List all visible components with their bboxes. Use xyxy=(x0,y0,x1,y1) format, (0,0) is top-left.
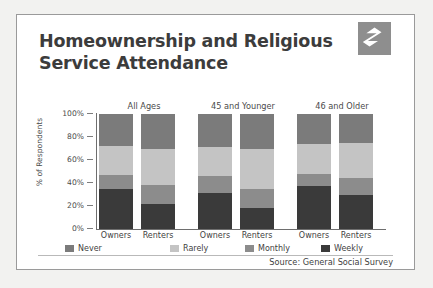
bar-segment-monthly[interactable] xyxy=(240,189,274,209)
bar-segment-rarely[interactable] xyxy=(297,144,331,174)
bar-segment-weekly[interactable] xyxy=(141,204,175,229)
tick-mark-icon xyxy=(87,228,93,229)
x-axis-line xyxy=(96,229,386,230)
source-divider xyxy=(38,255,393,256)
stacked-bar[interactable] xyxy=(141,114,175,229)
bar-group-title: 46 and Older xyxy=(297,101,387,111)
title-line-2: Service Attendance xyxy=(39,53,339,75)
x-axis-label: Owners xyxy=(192,231,238,240)
y-tick-0: 0% xyxy=(57,224,93,234)
bar-segment-monthly[interactable] xyxy=(99,175,133,189)
plot-area: All AgesOwnersRenters45 and YoungerOwner… xyxy=(99,114,387,229)
legend-item[interactable]: Never xyxy=(65,244,102,253)
tick-mark-icon xyxy=(87,205,93,206)
tick-mark-icon xyxy=(87,182,93,183)
legend-item[interactable]: Rarely xyxy=(170,244,208,253)
bar-segment-never[interactable] xyxy=(297,114,331,144)
bar-segment-weekly[interactable] xyxy=(99,189,133,229)
legend-label: Never xyxy=(78,244,102,253)
legend-item[interactable]: Weekly xyxy=(321,244,363,253)
bar-group: All AgesOwnersRenters xyxy=(99,114,189,229)
bar-group-title: 45 and Younger xyxy=(198,101,288,111)
stacked-bar[interactable] xyxy=(198,114,232,229)
bar-segment-never[interactable] xyxy=(141,114,175,149)
bar-segment-monthly[interactable] xyxy=(141,185,175,203)
source-note: Source: General Social Survey xyxy=(269,257,393,267)
tick-mark-icon xyxy=(87,113,93,114)
bar-segment-never[interactable] xyxy=(339,114,373,143)
tick-mark-icon xyxy=(87,136,93,137)
y-tick-100: 100% xyxy=(57,109,93,119)
stacked-bar[interactable] xyxy=(240,114,274,229)
stacked-bar[interactable] xyxy=(339,114,373,229)
bar-segment-rarely[interactable] xyxy=(198,147,232,176)
bar-segment-weekly[interactable] xyxy=(297,186,331,229)
legend-label: Monthly xyxy=(258,244,290,253)
bar-segment-rarely[interactable] xyxy=(240,149,274,189)
x-axis-label: Renters xyxy=(234,231,280,240)
bar-segment-never[interactable] xyxy=(240,114,274,149)
bar-segment-rarely[interactable] xyxy=(339,143,373,179)
bar-segment-weekly[interactable] xyxy=(339,195,373,230)
y-tick-60: 60% xyxy=(57,155,93,165)
bar-group: 45 and YoungerOwnersRenters xyxy=(198,114,288,229)
legend-swatch-icon xyxy=(321,245,330,252)
y-tick-40: 40% xyxy=(57,178,93,188)
stacked-bar[interactable] xyxy=(297,114,331,229)
page-title: Homeownership and Religious Service Atte… xyxy=(39,31,339,74)
bar-segment-never[interactable] xyxy=(198,114,232,147)
tick-mark-icon xyxy=(87,159,93,160)
bar-group: 46 and OlderOwnersRenters xyxy=(297,114,387,229)
bar-segment-rarely[interactable] xyxy=(99,146,133,175)
bar-segment-weekly[interactable] xyxy=(198,193,232,229)
bar-segment-never[interactable] xyxy=(99,114,133,146)
stacked-bar[interactable] xyxy=(99,114,133,229)
legend-swatch-icon xyxy=(245,245,254,252)
y-axis-ticks: 100% 80% 60% 40% 20% 0% xyxy=(57,114,93,229)
x-axis-label: Owners xyxy=(291,231,337,240)
y-axis-line xyxy=(96,113,97,230)
chart-card: Homeownership and Religious Service Atte… xyxy=(16,14,415,270)
y-tick-20: 20% xyxy=(57,201,93,211)
legend-swatch-icon xyxy=(170,245,179,252)
x-axis-label: Renters xyxy=(135,231,181,240)
bar-segment-weekly[interactable] xyxy=(240,208,274,229)
title-line-1: Homeownership and Religious xyxy=(39,31,339,53)
x-axis-label: Renters xyxy=(333,231,379,240)
legend-swatch-icon xyxy=(65,245,74,252)
bar-group-title: All Ages xyxy=(99,101,189,111)
zillow-z-logo-icon xyxy=(358,22,391,55)
stacked-bar-chart: % of Respondents 100% 80% 60% 40% 20% 0%… xyxy=(39,93,395,239)
bar-segment-monthly[interactable] xyxy=(339,178,373,194)
x-axis-label: Owners xyxy=(93,231,139,240)
bar-segment-monthly[interactable] xyxy=(198,176,232,193)
bar-segment-monthly[interactable] xyxy=(297,174,331,187)
legend-item[interactable]: Monthly xyxy=(245,244,290,253)
y-tick-80: 80% xyxy=(57,132,93,142)
y-axis-label: % of Respondents xyxy=(35,109,47,195)
bar-segment-rarely[interactable] xyxy=(141,149,175,186)
legend-label: Rarely xyxy=(183,244,208,253)
legend-label: Weekly xyxy=(334,244,363,253)
